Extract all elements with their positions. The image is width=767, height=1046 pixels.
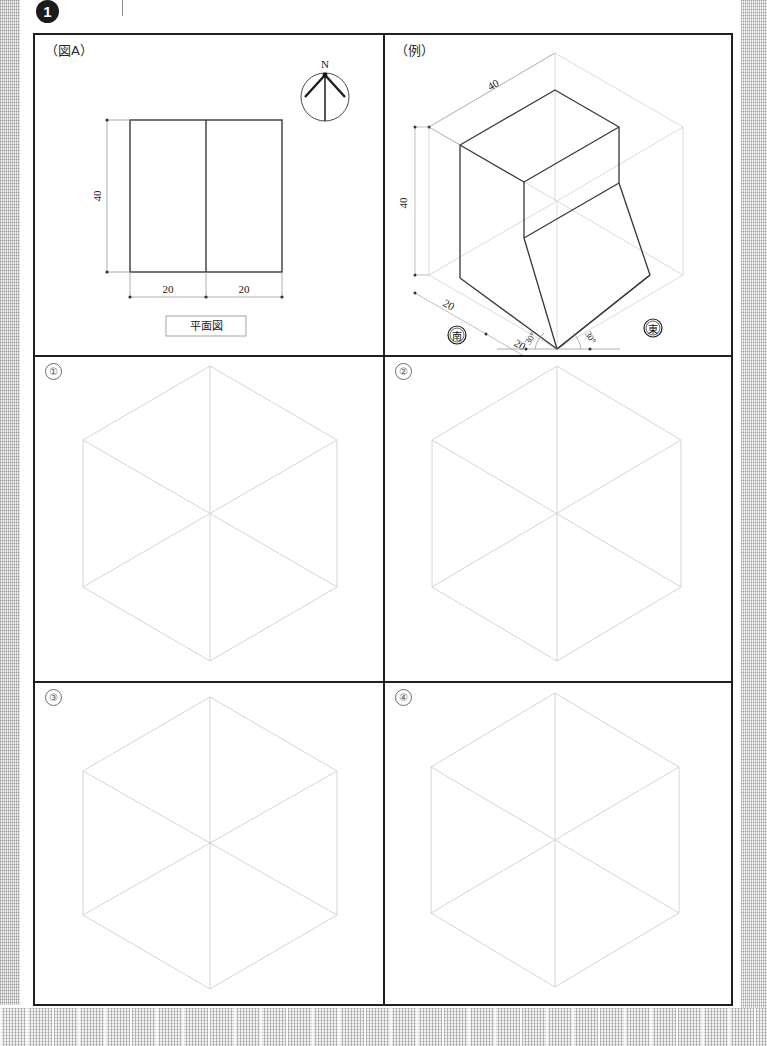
panel-example-label: （例）	[395, 40, 434, 59]
angle-right-label: 30°	[583, 329, 598, 345]
dimension-top-depth	[429, 53, 555, 145]
option-2-label: ②	[395, 363, 412, 380]
plan-view-shape	[130, 120, 282, 272]
isometric-hexagon	[431, 693, 679, 987]
dimension-width-right-label: 20	[239, 283, 251, 295]
example-isometric-drawing: 40 40 20 20	[385, 35, 731, 355]
panel-example: （例）	[385, 35, 731, 357]
direction-mark-east: 東	[644, 319, 662, 337]
dimension-height-label: 40	[91, 190, 103, 202]
dimension-width	[130, 272, 282, 297]
dimension-bottom-left-label: 20	[441, 297, 457, 313]
dimension-width-left-label: 20	[163, 283, 175, 295]
panel-figure-a: （図A） N 40	[35, 35, 385, 357]
option-3-isometric-grid	[35, 683, 383, 1002]
panel-option-2[interactable]: ②	[385, 357, 731, 683]
direction-mark-south-label: 南	[452, 330, 462, 342]
option-2-isometric-grid	[385, 357, 731, 681]
panel-figure-a-label: （図A）	[45, 40, 93, 59]
isometric-hexagon	[83, 697, 337, 989]
scan-artifact-right	[741, 0, 767, 1010]
page-header: 1	[0, 0, 767, 33]
scan-artifact-bottom-overlay	[0, 1008, 767, 1046]
direction-mark-south: 南	[448, 326, 466, 344]
option-1-isometric-grid	[35, 357, 383, 681]
construction-lines	[429, 53, 683, 349]
compass-rose	[301, 73, 349, 121]
header-divider	[122, 0, 123, 16]
dimension-vertical-height-label: 40	[397, 197, 409, 209]
direction-mark-east-label: 東	[648, 323, 658, 335]
compass-north-label: N	[321, 58, 329, 70]
option-3-label: ③	[45, 689, 62, 706]
isometric-hexagon	[432, 366, 681, 661]
question-number-badge: 1	[36, 0, 59, 23]
scan-artifact-left	[0, 0, 20, 1005]
panel-option-4[interactable]: ④	[385, 683, 731, 1004]
problem-frame: （図A） N 40	[33, 33, 733, 1006]
option-4-isometric-grid	[385, 683, 731, 1002]
option-1-label: ①	[45, 363, 62, 380]
plan-caption-label: 平面図	[190, 320, 223, 333]
panel-option-1[interactable]: ①	[35, 357, 385, 683]
option-4-label: ④	[395, 689, 412, 706]
dimension-height	[107, 120, 130, 272]
dimension-vertical-height	[415, 127, 429, 275]
panel-option-3[interactable]: ③	[35, 683, 385, 1004]
scan-artifact-bottom	[0, 1008, 767, 1046]
dimension-top-depth-label: 40	[485, 76, 501, 92]
figure-a-drawing: N 40 2	[35, 35, 383, 355]
isometric-hexagon	[83, 366, 337, 661]
